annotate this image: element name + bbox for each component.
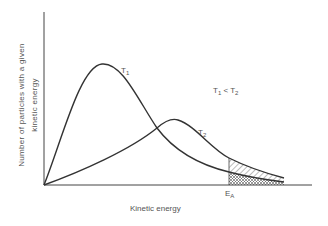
t2-label: T2 — [198, 128, 206, 138]
y-axis-label-line2: kinetic energy — [28, 25, 41, 185]
ea-label: EA — [225, 189, 234, 199]
y-axis-label: Number of particles with a given kinetic… — [15, 25, 41, 185]
x-axis-label: Kinetic energy — [130, 204, 181, 213]
y-axis-label-line1: Number of particles with a given — [15, 25, 28, 185]
condition-annotation: T1 < T2 — [213, 86, 238, 96]
t1-label: T1 — [121, 66, 129, 76]
distribution-plot — [0, 0, 328, 226]
